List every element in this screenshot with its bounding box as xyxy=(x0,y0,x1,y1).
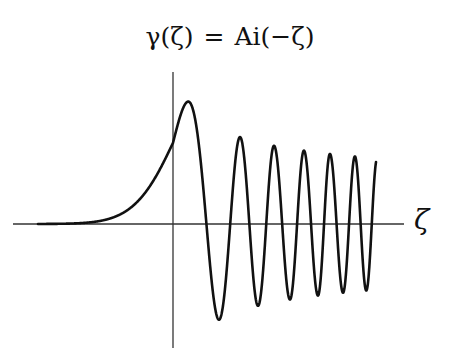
chart-plot xyxy=(0,0,454,354)
airy-curve xyxy=(38,102,376,320)
x-axis-label: ζ xyxy=(414,203,429,236)
